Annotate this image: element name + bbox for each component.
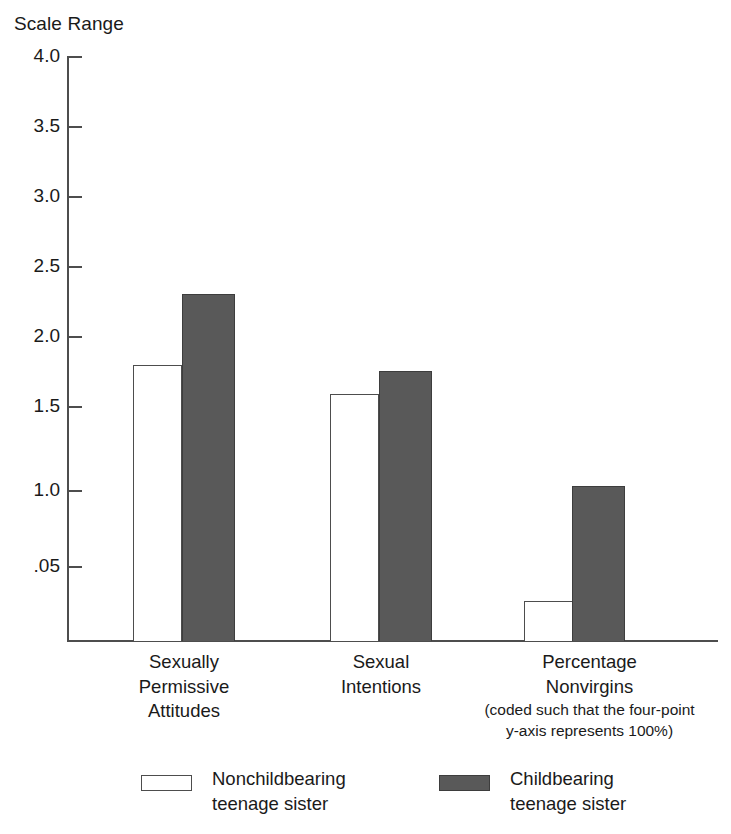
y-tick-mark-2-5 <box>69 266 82 268</box>
group-label-note-line-1: (coded such that the four-point <box>448 699 731 720</box>
y-tick-mark-1-0 <box>69 490 82 492</box>
group-label-line-3: Attitudes <box>74 699 294 724</box>
y-tick-label-wrap-0-5: .05 <box>0 556 60 576</box>
bar-childbearing-sexual-intentions <box>379 371 432 641</box>
y-tick-label-0-5: .05 <box>6 556 60 575</box>
y-tick-label-wrap-2-5: 2.5 <box>0 256 60 276</box>
y-tick-label-2-0: 2.0 <box>6 326 60 345</box>
white-square-swatch-icon <box>141 775 192 791</box>
y-tick-mark-3-5 <box>69 126 82 128</box>
y-tick-label-1-0: 1.0 <box>6 480 60 499</box>
y-tick-label-4-0: 4.0 <box>6 46 60 65</box>
y-tick-label-3-5: 3.5 <box>6 116 60 135</box>
group-label-line-2: Permissive <box>74 675 294 700</box>
y-tick-label-2-5: 2.5 <box>6 256 60 275</box>
legend-label-nonchildbearing: Nonchildbearing teenage sister <box>212 766 346 816</box>
group-label-line-2: Nonvirgins <box>448 675 731 700</box>
y-axis-line <box>67 56 69 642</box>
plot-area: 4.0 3.5 3.0 2.5 2.0 1.5 1.0 .05 <box>0 0 731 834</box>
y-tick-mark-3-0 <box>69 196 82 198</box>
x-axis-group-label-sexually-permissive-attitudes: Sexually Permissive Attitudes <box>74 650 294 724</box>
legend-label-line-2: teenage sister <box>510 791 626 816</box>
y-tick-label-wrap-3-0: 3.0 <box>0 186 60 206</box>
bar-chart-figure: Scale Range 4.0 3.5 3.0 2.5 2.0 1.5 <box>0 0 731 834</box>
legend-label-childbearing: Childbearing teenage sister <box>510 766 626 816</box>
legend-label-line-1: Nonchildbearing <box>212 768 346 789</box>
y-tick-label-wrap-2-0: 2.0 <box>0 326 60 346</box>
y-tick-label-1-5: 1.5 <box>6 396 60 415</box>
y-tick-label-wrap-1-0: 1.0 <box>0 480 60 500</box>
dark-gray-square-swatch-icon <box>439 775 490 791</box>
y-tick-mark-0-5 <box>69 566 82 568</box>
y-tick-label-wrap-3-5: 3.5 <box>0 116 60 136</box>
y-tick-mark-2-0 <box>69 336 82 338</box>
group-label-line-1: Sexually <box>74 650 294 675</box>
chart-legend: Nonchildbearing teenage sister Childbear… <box>0 766 731 834</box>
legend-label-line-1: Childbearing <box>510 768 614 789</box>
bar-nonchildbearing-percentage-nonvirgins <box>524 601 573 641</box>
x-axis-group-label-percentage-nonvirgins: Percentage Nonvirgins (coded such that t… <box>448 650 731 741</box>
bar-nonchildbearing-sexually-permissive-attitudes <box>133 365 182 641</box>
group-label-note-line-2: y-axis represents 100%) <box>448 720 731 741</box>
group-label-line-1: Percentage <box>448 650 731 675</box>
bar-nonchildbearing-sexual-intentions <box>330 394 379 641</box>
y-tick-label-wrap-4-0: 4.0 <box>0 46 60 66</box>
y-tick-mark-1-5 <box>69 406 82 408</box>
y-tick-label-wrap-1-5: 1.5 <box>0 396 60 416</box>
legend-label-line-2: teenage sister <box>212 791 346 816</box>
bar-childbearing-percentage-nonvirgins <box>572 486 625 641</box>
bar-childbearing-sexually-permissive-attitudes <box>182 294 235 641</box>
y-tick-mark-4-0 <box>69 56 82 58</box>
y-tick-label-3-0: 3.0 <box>6 186 60 205</box>
